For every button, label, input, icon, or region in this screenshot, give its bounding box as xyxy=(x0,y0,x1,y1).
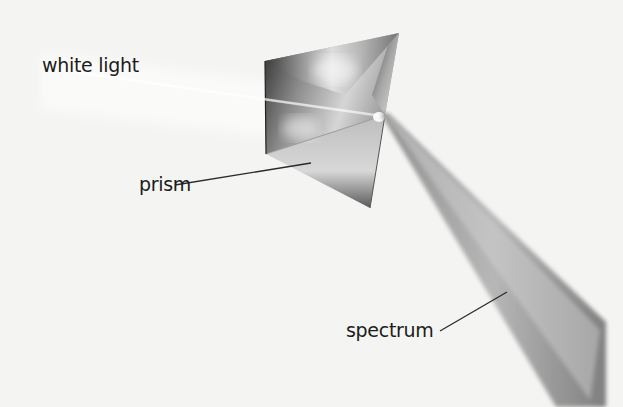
spectrum-beam xyxy=(381,113,606,407)
prism-leader-line xyxy=(175,163,311,185)
white-light-label: white light xyxy=(42,56,139,75)
spectrum-label: spectrum xyxy=(346,321,434,340)
prism-dispersion-diagram: white light prism spectrum xyxy=(0,0,623,407)
prism-label: prism xyxy=(139,175,191,194)
spectrum-leader-line xyxy=(440,292,507,331)
